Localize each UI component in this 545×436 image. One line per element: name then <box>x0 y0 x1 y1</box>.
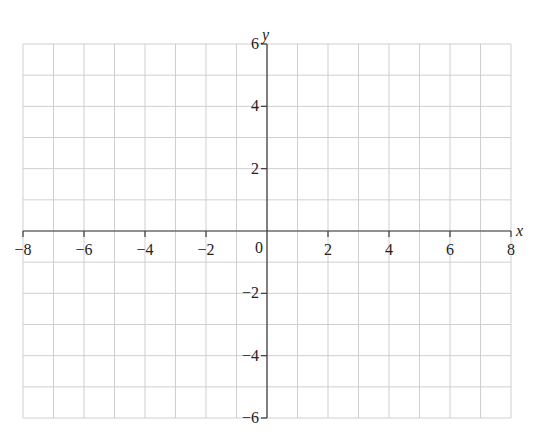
y-tick-label: 6 <box>251 35 259 52</box>
x-tick-label: 8 <box>507 241 515 258</box>
x-tick-label: −4 <box>136 241 153 258</box>
x-tick-label: −2 <box>197 241 214 258</box>
x-axis-label: x <box>515 222 523 239</box>
coordinate-grid: −8−6−4−22468−6−4−2246 x y 0 <box>0 0 545 436</box>
x-tick-label: −6 <box>75 241 92 258</box>
x-tick-label: 2 <box>324 241 332 258</box>
x-tick-label: 4 <box>385 241 393 258</box>
y-tick-label: −6 <box>242 409 259 426</box>
x-tick-label: −8 <box>14 241 31 258</box>
y-tick-label: −2 <box>242 284 259 301</box>
x-tick-label: 6 <box>446 241 454 258</box>
origin-label: 0 <box>255 239 263 256</box>
y-tick-label: 4 <box>251 97 259 114</box>
y-tick-label: −4 <box>242 347 259 364</box>
axes <box>23 44 511 418</box>
y-tick-label: 2 <box>251 160 259 177</box>
y-axis-label: y <box>260 26 270 44</box>
